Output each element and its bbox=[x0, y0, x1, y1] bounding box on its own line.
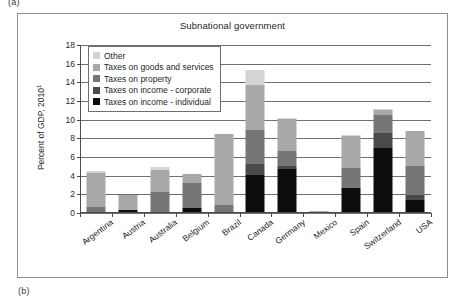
y-tick-label: 6 bbox=[70, 152, 75, 162]
legend-item-label: Taxes on income - corporate bbox=[104, 86, 211, 95]
panel-tag-a: (a) bbox=[8, 0, 20, 7]
bar-segment bbox=[246, 130, 265, 164]
bar-segment bbox=[342, 188, 361, 213]
y-tick-label: 18 bbox=[66, 40, 75, 50]
legend-swatch-icon bbox=[93, 87, 100, 94]
x-axis-labels: ArgentinaAustriaAustraliaBelgiumBrazilCa… bbox=[80, 217, 431, 279]
panel-tag-b: (b) bbox=[18, 286, 30, 296]
x-axis-label: Canada bbox=[245, 217, 275, 243]
bar-stack[interactable] bbox=[342, 135, 361, 213]
y-tick-label: 8 bbox=[70, 133, 75, 143]
bar-segment bbox=[182, 183, 201, 208]
y-tick-label: 14 bbox=[66, 77, 75, 87]
legend-swatch-icon bbox=[93, 98, 100, 105]
bar-segment bbox=[118, 195, 137, 210]
y-axis-title: Percent of GDP, 20101 bbox=[36, 52, 47, 202]
x-tick-mark bbox=[431, 213, 432, 217]
y-axis-title-footnote: 1 bbox=[36, 85, 42, 88]
bar-stack[interactable] bbox=[86, 171, 105, 213]
gridline bbox=[80, 213, 431, 214]
bar-slot bbox=[271, 45, 303, 213]
bar-stack[interactable] bbox=[182, 174, 201, 213]
chart-title: Subnational government bbox=[18, 20, 447, 31]
legend-swatch-icon bbox=[93, 75, 100, 82]
bar-segment bbox=[246, 164, 265, 175]
bar-slot bbox=[367, 45, 399, 213]
bar-segment bbox=[342, 136, 361, 169]
legend-item[interactable]: Other bbox=[93, 50, 214, 62]
bar-segment bbox=[278, 119, 297, 152]
bar-slot bbox=[240, 45, 272, 213]
y-tick-label: 16 bbox=[66, 59, 75, 69]
y-tick-label: 4 bbox=[70, 171, 75, 181]
bar-segment bbox=[182, 174, 201, 183]
x-axis-label: Germany bbox=[273, 217, 307, 246]
bar-segment bbox=[374, 115, 393, 133]
bar-segment bbox=[406, 131, 425, 166]
bar-segment bbox=[406, 166, 425, 195]
legend-item-label: Taxes on goods and services bbox=[104, 63, 214, 72]
x-axis-label: USA bbox=[414, 217, 434, 236]
bar-segment bbox=[342, 168, 361, 188]
bar-stack[interactable] bbox=[214, 134, 233, 213]
bar-segment bbox=[278, 151, 297, 166]
x-axis-label: Mexico bbox=[311, 217, 339, 241]
bar-stack[interactable] bbox=[246, 70, 265, 213]
x-axis-line bbox=[80, 212, 431, 213]
x-axis-label: Spain bbox=[347, 217, 370, 238]
x-axis-label: Austria bbox=[120, 217, 147, 241]
x-axis-label: Argentina bbox=[80, 217, 115, 247]
legend-item-label: Taxes on property bbox=[104, 75, 172, 84]
bar-segment bbox=[214, 134, 233, 205]
chart-frame: Subnational government Percent of GDP, 2… bbox=[17, 13, 448, 278]
bar-segment bbox=[374, 133, 393, 148]
bar-slot bbox=[399, 45, 431, 213]
bar-stack[interactable] bbox=[374, 109, 393, 213]
chart-legend: OtherTaxes on goods and servicesTaxes on… bbox=[88, 46, 221, 112]
bar-segment bbox=[150, 192, 169, 213]
legend-item-label: Other bbox=[104, 52, 125, 61]
bar-stack[interactable] bbox=[118, 195, 137, 213]
legend-item[interactable]: Taxes on income - corporate bbox=[93, 85, 214, 97]
legend-item-label: Taxes on income - individual bbox=[104, 98, 211, 107]
legend-item[interactable]: Taxes on goods and services bbox=[93, 62, 214, 74]
y-axis-line bbox=[80, 45, 81, 213]
bar-stack[interactable] bbox=[150, 167, 169, 213]
bar-segment bbox=[246, 70, 265, 85]
bar-segment bbox=[278, 169, 297, 213]
y-tick-label: 12 bbox=[66, 96, 75, 106]
x-axis-label: Australia bbox=[147, 217, 179, 245]
bar-slot bbox=[303, 45, 335, 213]
bar-stack[interactable] bbox=[278, 118, 297, 213]
legend-swatch-icon bbox=[93, 64, 100, 71]
bar-segment bbox=[246, 85, 265, 130]
y-tick-label: 0 bbox=[70, 208, 75, 218]
x-axis-label: Brazil bbox=[220, 217, 243, 238]
legend-item[interactable]: Taxes on property bbox=[93, 73, 214, 85]
legend-item[interactable]: Taxes on income - individual bbox=[93, 96, 214, 108]
bar-segment bbox=[374, 148, 393, 213]
bar-stack[interactable] bbox=[406, 131, 425, 213]
bar-segment bbox=[86, 173, 105, 207]
bar-segment bbox=[150, 170, 169, 191]
legend-swatch-icon bbox=[93, 52, 100, 59]
y-tick-label: 10 bbox=[66, 115, 75, 125]
bar-segment bbox=[246, 175, 265, 213]
bar-slot bbox=[335, 45, 367, 213]
x-axis-label: Belgium bbox=[181, 217, 212, 243]
y-axis-title-text: Percent of GDP, 2010 bbox=[36, 88, 46, 170]
y-tick-label: 2 bbox=[70, 189, 75, 199]
